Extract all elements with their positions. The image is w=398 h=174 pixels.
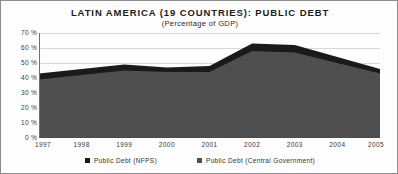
x-axis-tick-label: 2004 [329,141,345,148]
legend-swatch-icon [85,158,90,163]
y-axis-tick-label: 60 % [3,44,37,51]
chart-title: LATIN AMERICA (19 COUNTRIES): PUBLIC DEB… [1,7,398,18]
chart-legend: Public Debt (NFPS)Public Debt (Central G… [1,157,398,164]
x-axis-tick-label: 2002 [244,141,260,148]
x-axis-tick-label: 2000 [159,141,175,148]
x-axis-tick-label: 2001 [201,141,217,148]
legend-item[interactable]: Public Debt (NFPS) [85,157,157,164]
x-axis-tick-label: 2005 [368,141,384,148]
plot-area [39,33,380,138]
legend-label: Public Debt (NFPS) [94,157,157,164]
y-axis-tick-labels: 70 %60 %50 %40 %30 %20 %10 %0 % [1,33,37,138]
y-axis-tick-label: 70 % [3,29,37,36]
legend-label: Public Debt (Central Government) [206,157,315,164]
legend-item[interactable]: Public Debt (Central Government) [197,157,315,164]
y-axis-tick-label: 30 % [3,89,37,96]
plot-frame [39,33,380,138]
x-axis-tick-label: 1997 [35,141,51,148]
chart-container: LATIN AMERICA (19 COUNTRIES): PUBLIC DEB… [0,0,398,174]
chart-subtitle: (Percentage of GDP) [1,19,398,28]
y-axis-tick-label: 50 % [3,59,37,66]
y-axis-tick-label: 0 % [3,134,37,141]
y-axis-tick-label: 10 % [3,119,37,126]
x-axis-tick-label: 1999 [116,141,132,148]
x-axis-tick-label: 2003 [287,141,303,148]
y-axis-tick-label: 40 % [3,74,37,81]
x-axis-tick-label: 1998 [74,141,90,148]
y-axis-tick-label: 20 % [3,104,37,111]
legend-swatch-icon [197,158,202,163]
x-axis-tick-labels: 199719981999200020012002200320042005 [39,141,380,153]
